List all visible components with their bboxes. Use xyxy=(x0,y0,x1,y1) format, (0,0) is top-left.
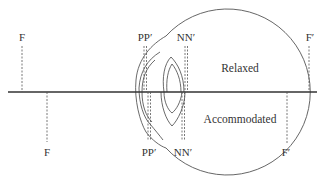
label-F-prime-relaxed: F′ xyxy=(306,31,315,43)
label-F-accommodated: F xyxy=(44,146,50,158)
label-F-prime-accommodated: F′ xyxy=(282,146,291,158)
label-PP-relaxed: PP′ xyxy=(138,31,153,43)
eye-cardinal-points-diagram: F PP′ NN′ F′ F PP′ NN′ F′ Relaxed Accomm… xyxy=(0,0,331,183)
lens-accommodated-inner xyxy=(164,92,182,113)
label-PP-accommodated: PP′ xyxy=(142,146,157,158)
label-NN-relaxed: NN′ xyxy=(177,31,195,43)
label-F-relaxed: F xyxy=(19,31,25,43)
label-NN-accommodated: NN′ xyxy=(174,146,192,158)
cornea-inner-surface xyxy=(139,52,163,140)
region-label-accommodated: Accommodated xyxy=(204,113,277,125)
region-label-relaxed: Relaxed xyxy=(221,62,259,74)
